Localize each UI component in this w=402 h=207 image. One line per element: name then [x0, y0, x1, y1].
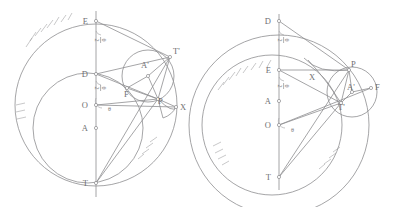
right-point-T [277, 175, 280, 178]
right-point-D [277, 19, 280, 22]
left-point-A [94, 126, 97, 129]
svg-text:2: 2 [94, 86, 101, 89]
left-label-T: T [83, 178, 89, 188]
right-label-X: X [309, 72, 315, 82]
left-theta-at-O: θ [108, 105, 111, 112]
right-label-Tp: T' [338, 102, 345, 112]
left-label-X: X [180, 102, 186, 112]
right-angle-arc-E [279, 77, 284, 81]
left-line-T-P [96, 99, 158, 183]
right-point-F [369, 86, 372, 89]
right-label-D: D [265, 16, 271, 26]
svg-text:θ: θ [101, 39, 108, 42]
left-label-D: D [82, 69, 88, 79]
left-line-T-Tp [96, 57, 170, 183]
left-hatching-lower-left [16, 103, 26, 119]
diagram-canvas: E D O A T T' A' F P X θ 2 θ 2 θ [0, 0, 402, 207]
svg-text:θ: θ [284, 85, 291, 88]
right-inner-circle [202, 55, 342, 195]
svg-text:2: 2 [277, 38, 284, 41]
right-label-O: O [265, 120, 271, 130]
left-line-F-Ap [127, 76, 148, 88]
svg-text:2: 2 [277, 84, 284, 87]
left-construction: E D O A T T' A' F P X θ 2 θ 2 θ [15, 11, 186, 197]
right-angle-arc-D [279, 31, 284, 35]
svg-text:θ: θ [284, 39, 291, 42]
left-label-P: P [158, 96, 163, 106]
left-line-D-Tp [96, 57, 170, 74]
left-label-E: E [83, 16, 88, 26]
left-point-E [94, 19, 97, 22]
left-point-O [94, 103, 97, 106]
left-label-Tp: T' [173, 46, 180, 56]
left-hatching-lower-right [138, 137, 157, 159]
right-label-P: P [351, 59, 356, 69]
right-label-Ap: A' [347, 82, 355, 92]
left-point-X [174, 105, 177, 108]
svg-text:θ: θ [101, 87, 108, 90]
left-point-Tp [168, 55, 171, 58]
right-label-A: A [265, 96, 272, 106]
left-label-Ap: A' [141, 60, 149, 70]
right-construction: D E A O T P A' F T' X θ 2 θ 2 θ [189, 14, 380, 207]
right-hatching-lower-left [213, 142, 229, 165]
right-hatching-upper [218, 60, 271, 90]
left-line-F-P [127, 88, 158, 99]
right-point-O [277, 123, 280, 126]
svg-text:2: 2 [94, 38, 101, 41]
geometry-figure: E D O A T T' A' F P X θ 2 θ 2 θ [0, 0, 402, 207]
right-label-E: E [266, 65, 271, 75]
right-label-T: T [266, 172, 272, 182]
left-point-D [94, 72, 97, 75]
left-point-Ap [146, 74, 149, 77]
left-angle-arc-D [96, 81, 101, 85]
left-label-A: A [82, 123, 89, 133]
right-point-A [277, 99, 280, 102]
left-label-O: O [82, 100, 88, 110]
right-point-E [277, 68, 280, 71]
right-label-F: F [375, 82, 380, 92]
right-line-D-P [279, 21, 349, 70]
left-point-T [94, 181, 97, 184]
left-label-F: F [124, 89, 129, 99]
right-theta-at-O: θ [291, 126, 294, 133]
left-angle-arc-E [96, 31, 101, 35]
